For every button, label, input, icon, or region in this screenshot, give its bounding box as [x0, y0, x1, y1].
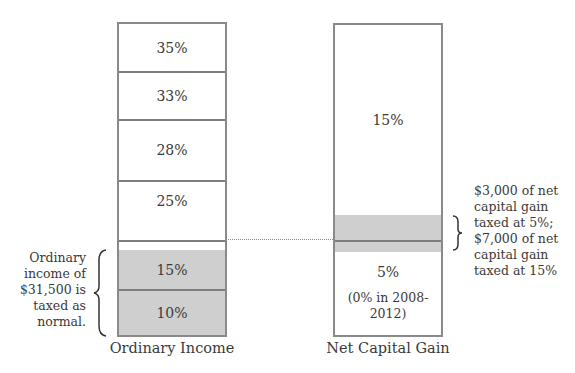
dotted-connector	[228, 239, 333, 240]
bracket-33: 33%	[119, 72, 225, 119]
rate-label: 35%	[156, 40, 187, 56]
rate-label: 33%	[156, 88, 187, 104]
bracket-25: 25%	[119, 181, 225, 221]
note-line: income of	[0, 266, 86, 282]
net-capital-gain-column: 15% 5% (0% in 2008- 2012)	[333, 23, 443, 337]
ordinary-income-label: Ordinary Income	[100, 340, 244, 356]
right-brace-icon	[452, 214, 464, 252]
bracket-15-shaded: 15%	[119, 250, 225, 290]
bracket-35: 35%	[119, 24, 225, 71]
bracket-10-shaded: 10%	[119, 291, 225, 335]
rate-sub-note: (0% in 2008- 2012)	[348, 290, 429, 322]
note-line: $3,000 of net	[474, 183, 574, 199]
sub-line: (0% in 2008-	[348, 290, 429, 306]
note-line: Ordinary	[0, 250, 86, 266]
capital-gain-note: $3,000 of net capital gain taxed at 5%; …	[474, 183, 574, 279]
ordinary-income-column: 35% 33% 28% 25% 15% 10%	[117, 22, 227, 337]
rate-label: 5%	[377, 264, 399, 280]
cg-shaded-15	[335, 215, 441, 240]
cg-bracket-5: 5% (0% in 2008- 2012)	[335, 252, 441, 335]
rate-label: 25%	[156, 193, 187, 209]
ordinary-income-note: Ordinary income of $31,500 is taxed as n…	[0, 250, 86, 330]
sub-line: 2012)	[348, 306, 429, 322]
left-brace-icon	[92, 248, 108, 338]
cg-shaded-5	[335, 242, 441, 252]
note-line: $7,000 of net	[474, 231, 574, 247]
rate-label: 10%	[156, 305, 187, 321]
rate-label: 28%	[156, 142, 187, 158]
rate-label: 15%	[372, 112, 403, 128]
note-line: taxed at 5%;	[474, 215, 574, 231]
cg-bracket-15: 15%	[335, 25, 441, 215]
note-line: normal.	[0, 314, 86, 330]
note-line: capital gain	[474, 247, 574, 263]
divider	[119, 240, 225, 242]
note-line: $31,500 is	[0, 282, 86, 298]
bracket-28: 28%	[119, 120, 225, 180]
net-capital-gain-label: Net Capital Gain	[318, 340, 458, 356]
note-line: capital gain	[474, 199, 574, 215]
note-line: taxed at 15%	[474, 263, 574, 279]
rate-label: 15%	[156, 262, 187, 278]
note-line: taxed as	[0, 298, 86, 314]
